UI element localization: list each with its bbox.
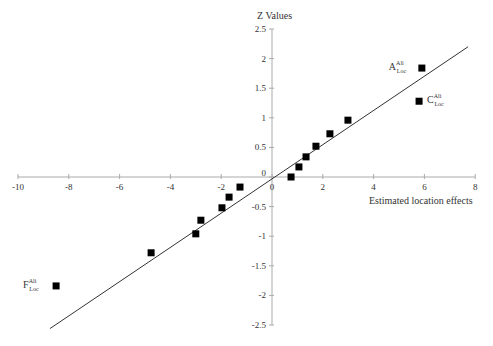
y-axis-title: Z Values	[257, 10, 292, 21]
y-tick-label: -2.5	[252, 320, 267, 330]
y-tick-label: -2	[259, 290, 267, 300]
data-point-square	[418, 65, 425, 72]
point-label-a: AAliLoc	[389, 60, 407, 74]
x-tick-label: 2	[321, 182, 326, 192]
y-tick-label: 1	[262, 113, 267, 123]
x-tick-label: -10	[12, 182, 24, 192]
point-label-c: CAliLoc	[427, 93, 444, 107]
data-point-square	[295, 163, 302, 170]
y-tick-label: -0.5	[252, 202, 267, 212]
y-tick-label: -1.5	[252, 261, 267, 271]
x-tick-label: -6	[116, 182, 124, 192]
x-tick-label: 0	[270, 182, 275, 192]
data-point-square	[218, 204, 225, 211]
y-tick-label: 0	[262, 168, 267, 178]
data-point-square	[197, 217, 204, 224]
x-tick-label: 8	[473, 182, 478, 192]
axes	[18, 29, 475, 325]
x-tick-label: 4	[371, 182, 376, 192]
x-axis-title: Estimated location effects	[369, 195, 473, 206]
y-tick-label: -1	[259, 231, 267, 241]
point-annotations: AAliLocCAliLocFAliLoc	[23, 60, 444, 292]
x-tick-label: -2	[217, 182, 225, 192]
x-tick-label: 6	[422, 182, 427, 192]
data-point-square	[303, 153, 310, 160]
data-point-square	[148, 249, 155, 256]
scatter-chart: -10-8-6-4-202468-2.5-2-1.5-1-0.50.511.52…	[0, 0, 493, 346]
data-point-square	[288, 174, 295, 181]
data-point-square	[344, 117, 351, 124]
data-point-square	[236, 184, 243, 191]
y-tick-label: 2.5	[255, 24, 267, 34]
y-tick-label: 0.5	[255, 142, 267, 152]
data-point-square	[312, 143, 319, 150]
x-tick-label: -4	[167, 182, 175, 192]
data-point-square	[53, 282, 60, 289]
data-point-square	[226, 194, 233, 201]
y-tick-label: 2	[262, 54, 267, 64]
x-tick-label: -8	[65, 182, 73, 192]
point-label-f: FAliLoc	[23, 278, 39, 292]
y-tick-label: 1.5	[255, 83, 267, 93]
data-point-square	[326, 130, 333, 137]
data-point-square	[416, 98, 423, 105]
data-point-square	[192, 230, 199, 237]
